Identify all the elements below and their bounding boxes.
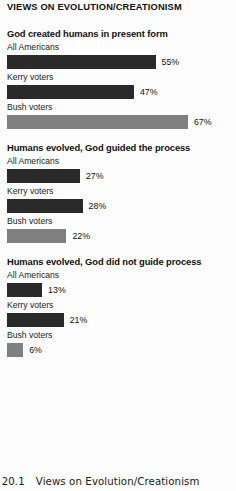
bar-value-label: 21% [70,315,88,325]
bar-group: Kerry voters21% [0,300,236,329]
bar [7,313,64,327]
bar-value-label: 28% [89,201,107,211]
bar-row: 6% [0,341,236,359]
bar-group: Kerry voters28% [0,186,236,215]
bar-category-label: Kerry voters [7,300,236,310]
bar-category-label: Kerry voters [7,72,236,82]
bar [7,343,23,357]
bar [7,199,83,213]
bar-group: All Americans13% [0,270,236,299]
bar-value-label: 47% [140,87,158,97]
chart-panel: God created humans in present formAll Am… [0,28,236,131]
bar-group: Kerry voters47% [0,72,236,101]
bar-value-label: 13% [48,285,66,295]
bar [7,85,134,99]
chart-plot-area: God created humans in present formAll Am… [0,28,236,370]
bar-row: 67% [0,113,236,131]
bar-category-label: All Americans [7,42,236,52]
panel-title: Humans evolved, God guided the process [7,142,236,153]
bar [7,169,80,183]
bar-group: All Americans55% [0,42,236,71]
chart-panel: Humans evolved, God did not guide proces… [0,256,236,359]
chart-title: VIEWS ON EVOLUTION/CREATIONISM [7,2,182,12]
bar-category-label: All Americans [7,156,236,166]
bar-category-label: Bush voters [7,330,236,340]
bar-category-label: All Americans [7,270,236,280]
bar-row: 55% [0,53,236,71]
bar-value-label: 27% [86,171,104,181]
bar-value-label: 22% [72,231,90,241]
bar-row: 21% [0,311,236,329]
bar-row: 22% [0,227,236,245]
figure-caption-text: Views on Evolution/Creationism [36,476,200,487]
bar [7,283,42,297]
bar-row: 47% [0,83,236,101]
bar-group: Bush voters22% [0,216,236,245]
bar [7,55,156,69]
bar-category-label: Kerry voters [7,186,236,196]
panel-title: Humans evolved, God did not guide proces… [7,256,236,267]
chart-panel: Humans evolved, God guided the processAl… [0,142,236,245]
bar [7,115,188,129]
panel-title: God created humans in present form [7,28,236,39]
bar-category-label: Bush voters [7,102,236,112]
figure-caption: e 20.1Views on Evolution/Creationism [0,476,236,487]
bar-row: 28% [0,197,236,215]
bar-group: Bush voters6% [0,330,236,359]
bar-value-label: 55% [162,57,180,67]
figure-container: VIEWS ON EVOLUTION/CREATIONISM God creat… [0,0,236,491]
bar-row: 13% [0,281,236,299]
bar-category-label: Bush voters [7,216,236,226]
bar-value-label: 67% [194,117,212,127]
bar-value-label: 6% [29,345,42,355]
bar-group: Bush voters67% [0,102,236,131]
bar-group: All Americans27% [0,156,236,185]
figure-number: e 20.1 [0,476,25,487]
bar [7,229,66,243]
bar-row: 27% [0,167,236,185]
